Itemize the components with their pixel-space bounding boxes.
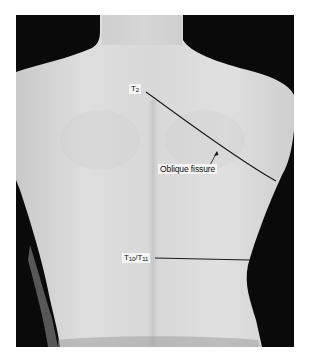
neck xyxy=(102,15,182,45)
label-t2-sub: 2 xyxy=(136,87,139,93)
spine-groove xyxy=(146,100,160,347)
label-t11-sub: 11 xyxy=(142,256,148,262)
label-t10-t11: T10/T11 xyxy=(122,253,150,263)
right-scapula xyxy=(165,110,245,170)
label-t2: T2 xyxy=(129,84,141,94)
back-photograph xyxy=(0,0,310,363)
label-oblique-fissure: Oblique fissure xyxy=(158,164,217,174)
left-scapula xyxy=(60,110,140,170)
label-t10-sub: 10 xyxy=(129,256,135,262)
back-anatomy-figure: T2 Oblique fissure T10/T11 xyxy=(0,0,310,363)
